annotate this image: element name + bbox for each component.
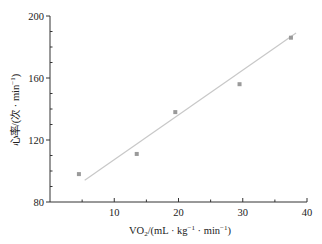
y-tick-label: 160 — [28, 73, 44, 84]
data-point — [135, 152, 139, 156]
x-tick-label: 30 — [238, 207, 249, 218]
x-tick-label: 40 — [302, 207, 313, 218]
axes: 1020304080120160200 — [28, 11, 312, 218]
trendline — [85, 33, 296, 180]
y-tick-label: 120 — [28, 135, 44, 146]
data-point — [289, 36, 293, 40]
trendline-segment — [85, 33, 296, 180]
data-point — [238, 82, 242, 86]
scatter-chart: 1020304080120160200 VO2/(mL · kg−1 · min… — [0, 0, 322, 244]
x-axis-label: VO2/(mL · kg−1 · min−1) — [129, 224, 232, 238]
y-axis-label: 心率/(次 · min−1) — [9, 73, 22, 146]
data-points — [77, 36, 293, 176]
x-tick-label: 20 — [173, 207, 184, 218]
data-point — [77, 172, 81, 176]
y-tick-label: 80 — [34, 197, 45, 208]
x-tick-label: 10 — [109, 207, 120, 218]
data-point — [173, 110, 177, 114]
y-tick-label: 200 — [28, 11, 44, 22]
